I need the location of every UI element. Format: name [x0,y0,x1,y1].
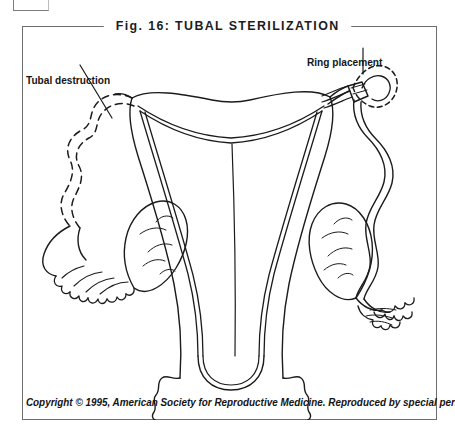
left-fallopian-tube-destroyed [61,94,134,228]
annotation-label-tubal-destruction: Tubal destruction [26,74,110,86]
annotation-label-ring-placement: Ring placement [307,56,382,68]
copyright-text: Copyright © 1995, American Society for R… [26,396,455,408]
cervix [152,356,310,420]
left-fimbriae [43,226,134,304]
leader-tubal-destruction [80,65,112,118]
endometrial-cavity [138,106,324,356]
right-fimbriae [356,298,414,330]
falope-ring [322,66,397,108]
uterus-outline [130,92,333,378]
right-ovary [309,203,372,300]
right-fallopian-tube [328,86,393,299]
page-edge-fragment [13,0,49,11]
copyright-notice: Copyright © 1995, American Society for R… [0,396,455,408]
